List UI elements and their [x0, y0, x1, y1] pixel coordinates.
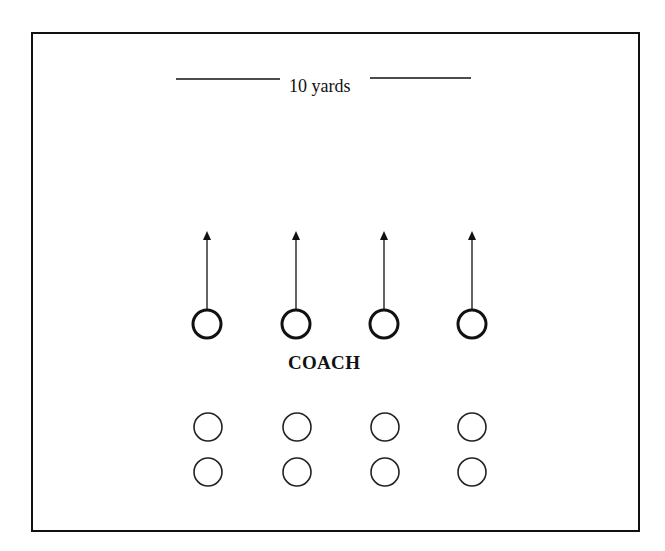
arrowhead-icon — [380, 231, 388, 240]
waiting-players-row-2 — [194, 458, 486, 486]
coach-label: COACH — [288, 352, 360, 374]
arrowhead-icon — [468, 231, 476, 240]
player-circle-icon — [458, 310, 486, 338]
arrowhead-icon — [203, 231, 211, 240]
player-circle-icon — [193, 310, 221, 338]
waiting-players-row-1 — [194, 413, 486, 441]
player-circle-icon — [282, 310, 310, 338]
player-circle-icon — [194, 413, 222, 441]
runner-arrows — [203, 231, 476, 309]
distance-label: 10 yards — [289, 76, 351, 97]
active-players — [193, 310, 486, 338]
arrowhead-icon — [292, 231, 300, 240]
player-circle-icon — [283, 458, 311, 486]
player-circle-icon — [371, 458, 399, 486]
player-circle-icon — [458, 458, 486, 486]
player-circle-icon — [194, 458, 222, 486]
player-circle-icon — [458, 413, 486, 441]
player-circle-icon — [370, 310, 398, 338]
player-circle-icon — [371, 413, 399, 441]
player-circle-icon — [283, 413, 311, 441]
